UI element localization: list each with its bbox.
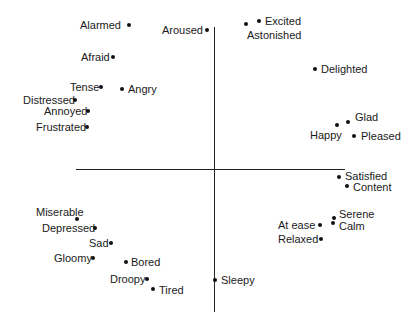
point-angry	[120, 87, 124, 91]
point-calm	[331, 221, 335, 225]
circumplex-diagram: AlarmedArousedExcitedAstonishedAfraidDel…	[0, 0, 414, 329]
point-pleased	[352, 134, 356, 138]
point-relaxed	[319, 237, 323, 241]
point-serene	[332, 216, 336, 220]
point-satisfied	[337, 175, 341, 179]
label-bored: Bored	[131, 256, 160, 268]
label-annoyed: Annoyed	[44, 105, 87, 117]
label-miserable: Miserable	[36, 206, 84, 218]
label-sleepy: Sleepy	[221, 274, 255, 286]
label-pleased: Pleased	[361, 130, 401, 142]
vertical-axis	[214, 27, 215, 312]
label-delighted: Delighted	[321, 63, 367, 75]
point-happy	[335, 123, 339, 127]
point-glad	[346, 120, 350, 124]
label-happy: Happy	[310, 129, 342, 141]
label-content: Content	[353, 181, 392, 193]
label-astonished: Astonished	[247, 29, 301, 41]
label-relaxed: Relaxed	[278, 233, 318, 245]
point-tired	[151, 287, 155, 291]
point-alarmed	[127, 23, 131, 27]
label-alarmed: Alarmed	[80, 19, 121, 31]
label-tired: Tired	[159, 284, 184, 296]
point-astonished	[244, 22, 248, 26]
point-excited	[257, 19, 261, 23]
label-angry: Angry	[128, 83, 157, 95]
label-frustrated: Frustrated	[36, 121, 86, 133]
label-gloomy: Gloomy	[54, 252, 92, 264]
point-sleepy	[213, 278, 217, 282]
label-sad: Sad	[89, 237, 109, 249]
label-afraid: Afraid	[81, 51, 110, 63]
label-tense: Tense	[70, 81, 99, 93]
label-glad: Glad	[355, 111, 378, 123]
point-at-ease	[318, 223, 322, 227]
point-sad	[109, 241, 113, 245]
point-droopy	[145, 277, 149, 281]
label-at-ease: At ease	[278, 219, 315, 231]
point-bored	[124, 260, 128, 264]
label-excited: Excited	[265, 15, 301, 27]
point-delighted	[313, 67, 317, 71]
point-afraid	[111, 55, 115, 59]
horizontal-axis	[76, 169, 345, 170]
point-content	[345, 184, 349, 188]
label-aroused: Aroused	[162, 24, 203, 36]
label-depressed: Depressed	[42, 222, 95, 234]
point-tense	[99, 85, 103, 89]
point-aroused	[205, 28, 209, 32]
label-calm: Calm	[339, 220, 365, 232]
label-droopy: Droopy	[110, 273, 145, 285]
label-serene: Serene	[339, 208, 374, 220]
